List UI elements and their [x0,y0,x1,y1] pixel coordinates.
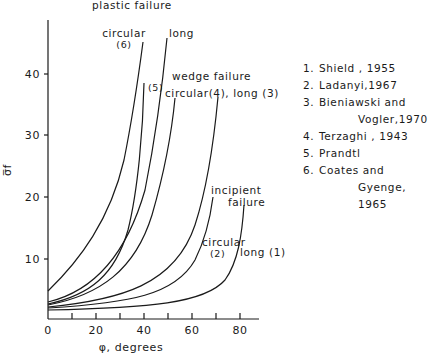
y-axis-label: σ̅f [1,163,14,176]
x-tick-40: 40 [136,324,151,337]
annotation-6: (6) [116,39,131,50]
annotation-5: (5) [148,82,163,93]
curve-circular-6 [48,42,143,291]
annotation-long: long [169,27,194,39]
legend-item-5: 5.Prandtl [303,145,428,162]
annotation-plastic-failure: plastic failure [92,0,172,11]
legend-item-4: 4.Terzaghi , 1943 [303,128,428,145]
x-tick-20: 20 [88,324,103,337]
curve-long-plastic [48,38,167,302]
annotation-incipient: incipient [211,184,261,196]
x-axis-label: φ, degrees [99,341,164,354]
annotation-wedge-failure: wedge failure [172,70,251,82]
annotation-failure: failure [228,196,265,208]
x-tick-0: 0 [44,324,52,337]
annotation-circular-6: circular [102,27,146,39]
legend-item-3: 3.Bieniawski and [303,94,428,111]
y-tick-40: 40 [25,68,40,81]
x-ticks [72,313,240,319]
x-tick-80: 80 [232,324,247,337]
curve-circular-2 [48,197,213,308]
annotation-2: (2) [210,248,225,259]
legend-item-3-cont: Vogler,1970 [303,111,428,128]
y-tick-10: 10 [25,253,40,266]
legend-item-2: 2.Ladanyi,1967 [303,77,428,94]
curve-5 [48,83,144,304]
y-tick-30: 30 [25,129,40,142]
x-tick-60: 60 [184,324,199,337]
legend: 1.Shield , 1955 2.Ladanyi,1967 3.Bieniaw… [303,60,428,213]
curve-long-3 [48,97,218,307]
y-tick-20: 20 [25,191,40,204]
legend-item-1: 1.Shield , 1955 [303,60,428,77]
annotation-circular-4-long-3: circular(4), long (3) [165,87,279,99]
legend-item-6: 6.Coates and [303,162,428,179]
annotation-long-1: long (1) [240,246,286,258]
legend-item-6-cont: Gyenge, 1965 [303,179,428,213]
